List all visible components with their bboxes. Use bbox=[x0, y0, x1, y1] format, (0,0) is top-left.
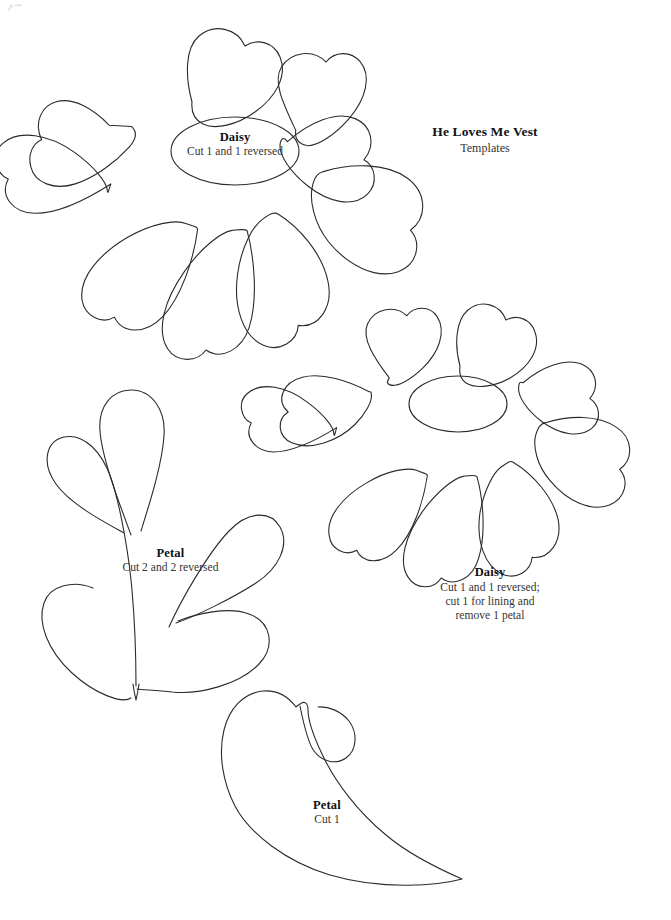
sheet-subtitle: Templates bbox=[385, 141, 585, 155]
daisy-small-shape bbox=[240, 304, 630, 588]
daisy-large-title: Daisy bbox=[135, 130, 335, 145]
daisy-large-shape bbox=[0, 29, 425, 361]
title-block: He Loves Me Vest Templates bbox=[385, 124, 585, 155]
petal-single-instruction-1: Cut 1 bbox=[262, 813, 392, 827]
template-sheet: He Loves Me Vest Templates Daisy Cut 1 a… bbox=[0, 0, 671, 920]
petal-compound-label: Petal Cut 2 and 2 reversed bbox=[78, 546, 263, 574]
petal-single-shape bbox=[221, 691, 462, 885]
daisy-small-title: Daisy bbox=[400, 565, 580, 580]
daisy-large-instruction-1: Cut 1 and 1 reversed bbox=[135, 145, 335, 159]
petal-single-title: Petal bbox=[262, 798, 392, 813]
daisy-large-label: Daisy Cut 1 and 1 reversed bbox=[135, 130, 335, 158]
sheet-title: He Loves Me Vest bbox=[385, 124, 585, 140]
petal-single-label: Petal Cut 1 bbox=[262, 798, 392, 826]
daisy-small-instruction-2: cut 1 for lining and bbox=[400, 594, 580, 608]
daisy-small-label: Daisy Cut 1 and 1 reversed; cut 1 for li… bbox=[400, 565, 580, 622]
petal-compound-instruction-1: Cut 2 and 2 reversed bbox=[78, 561, 263, 575]
daisy-small-instruction-1: Cut 1 and 1 reversed; bbox=[400, 580, 580, 594]
petal-compound-shape bbox=[42, 390, 284, 700]
petal-compound-title: Petal bbox=[78, 546, 263, 561]
daisy-small-center bbox=[409, 376, 507, 432]
daisy-small-instruction-3: remove 1 petal bbox=[400, 608, 580, 622]
